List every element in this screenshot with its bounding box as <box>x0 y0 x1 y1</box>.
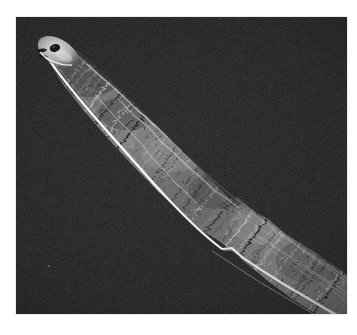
dust-speck <box>244 79 245 80</box>
specimen-graphic <box>16 17 347 314</box>
micrograph-panel <box>16 17 347 314</box>
dust-speck <box>48 265 50 267</box>
caption <box>16 316 347 334</box>
micrograph-figure <box>0 0 357 335</box>
